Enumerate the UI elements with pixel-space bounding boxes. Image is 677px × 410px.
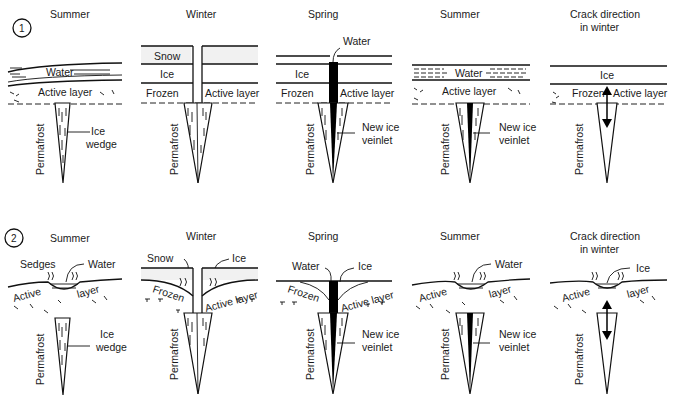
panel-title: Crack direction [570, 230, 640, 242]
ice-wedge-label: Ice [91, 125, 105, 137]
ice-label: Ice [232, 252, 246, 264]
frozen-label: Frozen [281, 87, 314, 99]
permafrost-label: Permafrost [439, 124, 451, 175]
water-label: Water [455, 67, 483, 79]
new-ice-veinlet-label-2: veinlet [499, 341, 529, 353]
panel-summer: Summer Sedges Water Active layer Ice wed… [8, 232, 127, 395]
new-ice-veinlet-label: New ice [362, 328, 400, 340]
row-1: 1 Summer Water Active layer Ice wedge Pe… [8, 8, 668, 183]
permafrost-label: Permafrost [304, 329, 316, 380]
panel-title: Summer [440, 230, 480, 242]
active-layer-label: Active layer [442, 85, 497, 97]
permafrost-label: Permafrost [168, 124, 180, 175]
panel-spring: Spring Water Ice Frozen Active layer New… [276, 8, 400, 183]
permafrost-label: Permafrost [34, 124, 46, 175]
panel-title-line-2: in winter [580, 243, 620, 255]
panel-title: Crack direction [570, 8, 640, 20]
permafrost-label: Permafrost [573, 334, 585, 385]
active-layer-label: Active layer [613, 87, 668, 99]
frozen-label: Frozen [151, 282, 186, 304]
panel-title: Spring [308, 8, 339, 20]
ice-wedge-evolution-diagram: 1 Summer Water Active layer Ice wedge Pe… [0, 0, 677, 410]
water-label: Water [292, 260, 320, 272]
panel-title: Spring [308, 230, 339, 242]
active-label: Active [560, 285, 591, 304]
layer-label: layer [625, 282, 651, 300]
panel-spring: Spring Water Ice Frozen Active layer New… [276, 230, 400, 394]
ice-label: Ice [160, 68, 174, 80]
active-label: Active [11, 285, 42, 304]
panel-title: Winter [186, 8, 217, 20]
panel-title-line-2: in winter [580, 21, 620, 33]
ice-label: Ice [636, 262, 650, 274]
frozen-label: Frozen [146, 87, 179, 99]
active-layer-label: Active layer [38, 86, 93, 98]
panel-winter: Winter Snow Ice Frozen Active layer Perm… [141, 8, 260, 183]
active-label: Active [417, 285, 448, 304]
water-label: Water [88, 258, 116, 270]
permafrost-label: Permafrost [573, 124, 585, 175]
row-number: 2 [11, 233, 17, 244]
panel-title: Summer [50, 8, 90, 20]
sedges-label: Sedges [20, 258, 56, 270]
water-label: Water [495, 258, 523, 270]
row-number-badge: 1 [13, 19, 31, 37]
ice-wedge-label-2: wedge [95, 341, 127, 353]
water-label: Water [343, 35, 371, 47]
panel-title: Winter [186, 230, 217, 242]
ice-wedge-label-2: wedge [85, 138, 117, 150]
row-number: 1 [19, 23, 25, 34]
new-ice-veinlet-label: New ice [499, 328, 537, 340]
water-label: Water [46, 66, 74, 78]
panel-title: Summer [50, 232, 90, 244]
panel-summer: Summer Water Active layer Ice wedge Perm… [8, 8, 122, 183]
active-layer-label: Active layer [339, 288, 395, 314]
frozen-label: Frozen [286, 282, 321, 304]
active-layer-label: Active layer [205, 87, 260, 99]
panel-crack-direction: Crack direction in winter Ice Frozen Act… [550, 8, 668, 183]
new-ice-veinlet-label: New ice [499, 121, 537, 133]
permafrost-label: Permafrost [34, 334, 46, 385]
permafrost-label: Permafrost [439, 329, 451, 380]
layer-label: layer [487, 282, 513, 300]
ice-label: Ice [600, 69, 614, 81]
panel-summer-2: Summer Water Active layer New ice veinle… [412, 230, 537, 394]
new-ice-veinlet-label-2: veinlet [362, 341, 392, 353]
panel-title: Summer [440, 8, 480, 20]
ice-wedge-label: Ice [100, 328, 114, 340]
active-layer-label: Active layer [203, 288, 259, 314]
ice-label: Ice [358, 260, 372, 272]
new-ice-veinlet-label: New ice [362, 121, 400, 133]
panel-crack-direction: Crack direction in winter Ice Active lay… [550, 230, 667, 394]
snow-label: Snow [147, 252, 174, 264]
row-2: 2 Summer Sedges Water Active layer Ice w… [5, 229, 667, 395]
snow-label: Snow [154, 50, 181, 62]
permafrost-label: Permafrost [168, 329, 180, 380]
active-layer-label: Active layer [340, 87, 395, 99]
new-ice-veinlet-label-2: veinlet [362, 134, 392, 146]
frozen-label: Frozen [572, 87, 605, 99]
row-number-badge: 2 [5, 229, 23, 247]
ice-label: Ice [295, 68, 309, 80]
permafrost-label: Permafrost [304, 124, 316, 175]
panel-summer-2: Summer Water Active layer New ice veinle… [412, 8, 537, 183]
panel-winter: Winter Snow Ice Frozen Active layer Perm… [141, 230, 259, 394]
new-ice-veinlet-label-2: veinlet [499, 134, 529, 146]
layer-label: layer [75, 282, 101, 300]
